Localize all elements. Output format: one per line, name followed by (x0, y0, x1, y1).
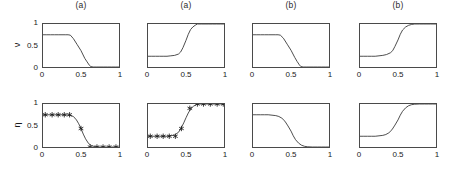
curve-canvas (43, 104, 119, 147)
subplot-panel: 00.51 (222, 88, 340, 165)
subplot-panel: 00.51 (329, 88, 447, 165)
plot-area (252, 23, 330, 68)
curve-canvas (253, 24, 329, 67)
x-axis-tick-label: 0.5 (176, 151, 196, 159)
x-axis-tick-label: 0 (137, 151, 157, 159)
curve-canvas (253, 104, 329, 147)
curve-canvas (148, 24, 224, 67)
x-axis-tick-label: 0.5 (71, 71, 91, 79)
data-curve (148, 104, 224, 136)
x-axis-tick-label: 0 (349, 151, 369, 159)
panel-title: (b) (359, 0, 437, 10)
x-axis-tick-label: 1 (427, 71, 447, 79)
subplot-panel: (a)00.51 (117, 8, 235, 85)
panel-title: (a) (147, 0, 225, 10)
data-curve (148, 24, 224, 56)
plot-area (359, 23, 437, 68)
curve-canvas (360, 24, 436, 67)
x-axis-tick-label: 0 (242, 71, 262, 79)
x-axis-tick-label: 0.5 (388, 71, 408, 79)
data-curve (360, 24, 436, 56)
data-curve (253, 115, 329, 147)
plot-area (42, 23, 120, 68)
data-marker-asterisk (43, 112, 118, 147)
plot-area (252, 103, 330, 148)
subplot-panel: (a)00.51ν00.51 (12, 8, 130, 85)
plot-area (147, 103, 225, 148)
curve-canvas (360, 104, 436, 147)
y-axis-label: η (12, 112, 22, 138)
curve-canvas (148, 104, 224, 147)
subplot-panel: 00.51η00.51 (12, 88, 130, 165)
y-axis-label: ν (12, 32, 22, 58)
curve-canvas (43, 24, 119, 67)
x-axis-tick-label: 0 (32, 151, 52, 159)
x-axis-tick-label: 1 (427, 151, 447, 159)
x-axis-tick-label: 0 (349, 71, 369, 79)
panel-title: (b) (252, 0, 330, 10)
plot-area (147, 23, 225, 68)
x-axis-tick-label: 0.5 (281, 151, 301, 159)
data-curve (360, 104, 436, 136)
x-axis-tick-label: 0.5 (388, 151, 408, 159)
x-axis-tick-label: 0 (32, 71, 52, 79)
data-curve (253, 35, 329, 67)
x-axis-tick-label: 0 (137, 71, 157, 79)
subplot-panel: 00.51 (117, 88, 235, 165)
subplot-panel: (b)00.51 (329, 8, 447, 85)
figure-panel-grid: (a)00.51ν00.51(a)00.51(b)00.51(b)00.5100… (0, 0, 474, 171)
y-axis-tick-label: 1 (12, 99, 38, 107)
data-curve (43, 35, 119, 67)
plot-area (359, 103, 437, 148)
subplot-panel: (b)00.51 (222, 8, 340, 85)
x-axis-tick-label: 0.5 (176, 71, 196, 79)
plot-area (42, 103, 120, 148)
panel-title: (a) (42, 0, 120, 10)
x-axis-tick-label: 0.5 (281, 71, 301, 79)
x-axis-tick-label: 0.5 (71, 151, 91, 159)
y-axis-tick-label: 1 (12, 19, 38, 27)
x-axis-tick-label: 0 (242, 151, 262, 159)
data-marker-asterisk (148, 104, 224, 139)
